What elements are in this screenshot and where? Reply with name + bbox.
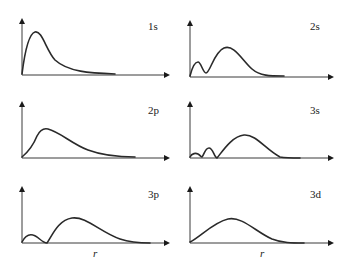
curve-3p — [22, 218, 150, 243]
orbital-label: 2s — [310, 20, 320, 32]
y-axis-arrow-icon — [187, 20, 193, 26]
curve-2s — [190, 47, 284, 76]
y-axis-arrow-icon — [187, 186, 193, 192]
x-axis-arrow-icon — [328, 155, 334, 161]
curve-3s — [190, 135, 300, 158]
x-axis-arrow-icon — [164, 155, 170, 161]
panel-2s: 2s — [187, 20, 334, 80]
panel-1s: 1s — [19, 18, 170, 78]
curve-2p — [22, 129, 135, 157]
y-axis-arrow-icon — [19, 186, 25, 192]
curve-1s — [22, 32, 115, 74]
panel-3s: 3s — [187, 101, 334, 161]
x-axis-arrow-icon — [164, 240, 170, 246]
panel-3p: 3pr — [19, 186, 170, 259]
panel-2p: 2p — [19, 101, 170, 161]
orbital-label: 3p — [148, 188, 160, 200]
curve-3d — [190, 219, 304, 243]
y-axis-arrow-icon — [187, 101, 193, 107]
x-axis-arrow-icon — [164, 72, 170, 78]
panel-3d: 3dr — [187, 186, 334, 259]
chart-canvas: 1s2s2p3s3pr3dr — [0, 0, 352, 273]
orbital-label: 2p — [148, 104, 160, 116]
x-axis-label: r — [93, 247, 98, 259]
orbital-label: 3s — [310, 104, 320, 116]
orbital-label: 1s — [148, 20, 158, 32]
orbital-label: 3d — [310, 188, 322, 200]
x-axis-arrow-icon — [328, 240, 334, 246]
x-axis-label: r — [260, 247, 265, 259]
orbital-radial-distribution-figure: 1s2s2p3s3pr3dr — [0, 0, 352, 273]
y-axis-arrow-icon — [19, 18, 25, 24]
y-axis-arrow-icon — [19, 101, 25, 107]
x-axis-arrow-icon — [328, 74, 334, 80]
